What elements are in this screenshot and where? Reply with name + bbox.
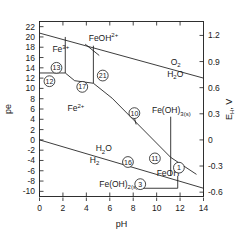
y-tick-label-3: 16 — [26, 53, 36, 63]
y-tick-label-4: 14 — [26, 63, 36, 73]
y-tick-label-13: -4 — [27, 155, 35, 165]
x-axis-label: pH — [116, 219, 128, 229]
y-tick-label-9: 4 — [30, 114, 35, 124]
x-tick-label-2: 4 — [84, 203, 89, 213]
circled-marker-label-10: 10 — [130, 110, 138, 117]
y-tick-label-12: -2 — [27, 145, 35, 155]
species-label-feoh2: FeOH2+ — [89, 32, 119, 42]
circled-marker-label-12: 12 — [46, 78, 54, 85]
y-right-tick-label-4: 0 — [208, 135, 213, 145]
boundary-fe2-feoh2-seg — [65, 73, 74, 81]
boundary-feoh2-feoh3 — [93, 83, 112, 98]
x-tick-label-0: 0 — [37, 203, 42, 213]
x-tick-label-6: 12 — [175, 203, 185, 213]
y-tick-label-1: 20 — [26, 32, 36, 42]
species-label-fe3: Fe3+ — [52, 44, 69, 54]
circled-marker-label-17: 17 — [78, 83, 86, 90]
x-tick-label-7: 14 — [199, 203, 209, 213]
circled-marker-label-13: 13 — [53, 64, 61, 71]
y-tick-label-7: 8 — [30, 94, 35, 104]
y-right-tick-label-6: -0.6 — [208, 187, 223, 197]
y-right-tick-label-3: 0.3 — [208, 109, 220, 119]
species-label-o2: O2 — [171, 57, 182, 68]
x-tick-label-3: 6 — [107, 203, 112, 213]
boundary-pointer-feoh2 — [85, 44, 99, 55]
y-tick-label-16: -10 — [23, 186, 36, 196]
circled-marker-label-1: 1 — [177, 164, 181, 171]
y-tick-label-5: 12 — [26, 73, 36, 83]
species-label-fe2: Fe2+ — [68, 103, 85, 113]
circled-marker-label-3: 3 — [138, 181, 142, 188]
species-label-feoh3s: Fe(OH)3(s) — [152, 105, 191, 116]
pe-ph-diagram-svg: 2220181614121086420-2-4-6-8-101.20.90.60… — [0, 0, 242, 239]
y-tick-label-0: 22 — [26, 22, 36, 32]
circled-marker-label-16: 16 — [124, 159, 132, 166]
y-tick-label-10: 2 — [30, 125, 35, 135]
y-tick-label-6: 10 — [26, 83, 36, 93]
y-axis-label: pe — [3, 104, 13, 114]
pourbaix-diagram-figure: 2220181614121086420-2-4-6-8-101.20.90.60… — [0, 0, 242, 239]
species-label-h2: H2 — [90, 155, 100, 166]
y-tick-label-14: -6 — [27, 166, 35, 176]
y-right-axis-label: EH, V — [224, 99, 235, 120]
x-tick-label-5: 10 — [152, 203, 162, 213]
y-tick-label-2: 18 — [26, 42, 36, 52]
y-tick-label-11: 0 — [30, 135, 35, 145]
y-right-tick-label-5: -0.3 — [208, 161, 223, 171]
circled-marker-label-21: 21 — [99, 72, 107, 79]
y-right-axis-label-text: EH, V — [224, 99, 235, 120]
y-tick-label-15: -8 — [27, 176, 35, 186]
x-tick-label-1: 2 — [61, 203, 66, 213]
y-tick-label-8: 6 — [30, 104, 35, 114]
species-label-feoh2s: Fe(OH)2(s) — [99, 179, 138, 190]
circled-marker-label-11: 11 — [151, 155, 158, 162]
y-right-tick-label-0: 1.2 — [208, 30, 220, 40]
x-tick-label-4: 8 — [131, 203, 136, 213]
y-right-tick-label-1: 0.9 — [208, 57, 220, 67]
species-label-h2o_bot: H2O — [96, 143, 112, 154]
y-right-tick-label-2: 0.6 — [208, 83, 220, 93]
